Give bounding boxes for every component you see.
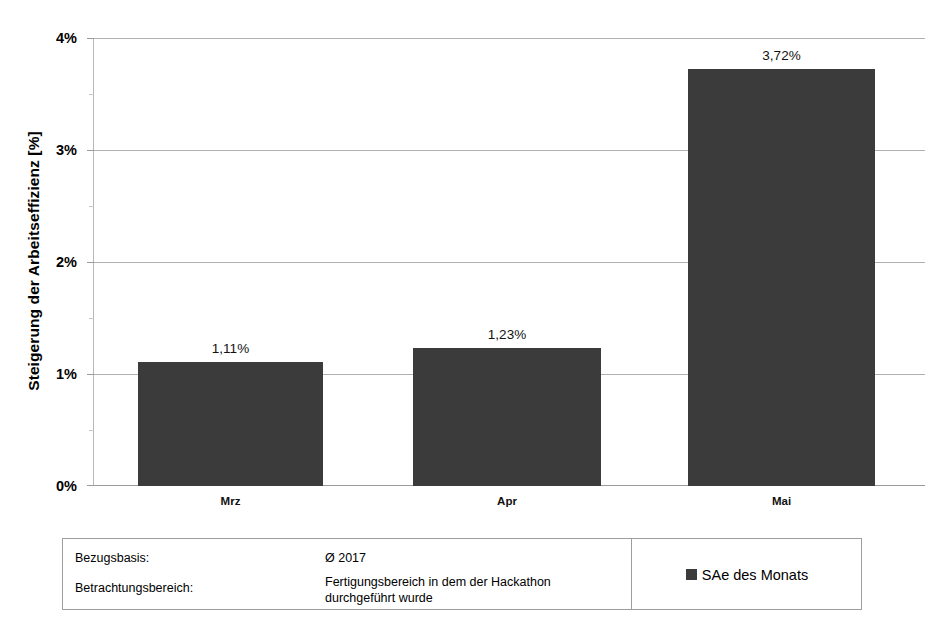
chart-legend: SAe des Monats: [632, 539, 862, 609]
legend-entry-sae-des-monats[interactable]: SAe des Monats: [686, 565, 808, 583]
footer-value-betrachtungsbereich-line1: Fertigungsbereich in dem der Hackathon: [325, 575, 615, 591]
bar-apr[interactable]: [413, 348, 601, 486]
bar-mai[interactable]: [688, 69, 875, 486]
x-tick-label-mai: Mai: [688, 496, 875, 508]
y-axis-tick-labels: 0% 1% 2% 3% 4%: [0, 38, 86, 486]
y-tick-mark-0pct: [87, 485, 94, 486]
y-tick-mark-1pct: [87, 374, 94, 375]
filled-square-marker-icon: [686, 569, 697, 580]
x-tick-label-mrz: Mrz: [138, 496, 323, 508]
y-tick-label-2: 2%: [7, 255, 77, 270]
y-tick-label-3: 3%: [7, 143, 77, 158]
gridline-4pct: [93, 38, 925, 39]
y-tick-mark-4pct: [87, 38, 94, 39]
y-tick-mark-2pct: [87, 262, 94, 263]
footer-value-bezugsbasis: Ø 2017: [325, 551, 366, 567]
bar-value-mai: 3,72%: [688, 49, 875, 63]
x-tick-label-apr: Apr: [413, 496, 601, 508]
footer-value-betrachtungsbereich-line2: durchgeführt wurde: [325, 591, 615, 607]
plot-area: 1,11% 1,23% 3,72% Mrz Apr Mai: [93, 38, 925, 486]
y-tick-mark-3pct: [87, 150, 94, 151]
y-tick-label-0: 0%: [7, 479, 77, 494]
y-minor-tick-3-5pct: [89, 94, 94, 95]
y-minor-tick-2-5pct: [89, 206, 94, 207]
legend-label-sae-des-monats: SAe des Monats: [702, 567, 808, 583]
y-minor-tick-0-5pct: [89, 430, 94, 431]
footer-label-betrachtungsbereich: Betrachtungsbereich:: [75, 581, 193, 597]
footer-value-betrachtungsbereich: Fertigungsbereich in dem der Hackathon d…: [325, 575, 615, 606]
y-minor-tick-1-5pct: [89, 318, 94, 319]
bar-value-apr: 1,23%: [413, 328, 601, 342]
y-tick-label-4: 4%: [7, 31, 77, 46]
bar-mrz[interactable]: [138, 362, 323, 486]
y-tick-label-1: 1%: [7, 367, 77, 382]
footer-label-bezugsbasis: Bezugsbasis:: [75, 551, 149, 567]
bar-value-mrz: 1,11%: [138, 342, 323, 356]
chart-page: Steigerung der Arbeitseffizienz [%] 0% 1…: [0, 0, 942, 631]
footer-info-box: Bezugsbasis: Betrachtungsbereich: Ø 2017…: [62, 538, 862, 610]
